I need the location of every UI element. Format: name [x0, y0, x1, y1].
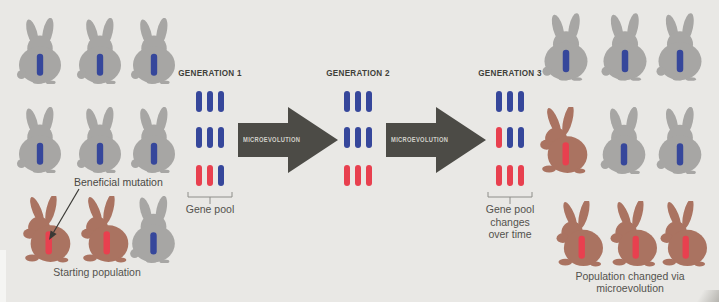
allele-blue	[37, 143, 43, 165]
allele-bar-red	[496, 127, 502, 148]
allele-red	[104, 231, 110, 254]
allele-blue	[37, 54, 43, 76]
gene-pool-caption: changes	[490, 216, 530, 228]
microevolution-label-1: MICROEVOLUTION	[243, 136, 289, 143]
generation-label-3: GENERATION 3	[478, 68, 541, 78]
changed-population-caption: Population changed via microevolution	[575, 270, 684, 294]
page-edge	[0, 250, 6, 302]
allele-bar-red	[355, 165, 361, 186]
allele-bar-blue	[518, 91, 524, 112]
allele-bar-blue	[366, 127, 372, 148]
allele-bar-blue	[355, 91, 361, 112]
allele-bar-blue	[366, 91, 372, 112]
rabbit-gray	[655, 107, 705, 174]
rabbit-gray	[129, 107, 179, 173]
microevolution-arrow-2: MICROEVOLUTION	[386, 105, 486, 175]
microevolution-diagram: GENERATION 1Gene poolGENERATION 2GENERAT…	[0, 0, 719, 302]
generation-label-1: GENERATION 1	[178, 68, 241, 78]
beneficial-mutation-arrow-icon	[40, 183, 100, 245]
rabbit-gray	[600, 13, 650, 81]
allele-bar-blue	[196, 127, 202, 148]
allele-red	[633, 236, 639, 259]
allele-bar-red	[507, 165, 513, 186]
allele-bar-blue	[344, 91, 350, 112]
rabbit-brown	[539, 107, 589, 174]
allele-blue	[151, 143, 157, 165]
gene-pool-caption: Gene pool	[486, 203, 534, 215]
rabbit-gray	[75, 18, 125, 84]
allele-blue	[622, 50, 629, 73]
allele-bar-blue	[496, 91, 502, 112]
rabbit-gray	[599, 107, 649, 174]
allele-bar-blue	[518, 127, 524, 148]
rabbit-gray	[75, 107, 125, 173]
allele-bar-blue	[207, 127, 213, 148]
allele-blue	[151, 54, 157, 76]
allele-bar-red	[207, 165, 213, 186]
rabbit-brown	[554, 201, 606, 267]
allele-blue	[621, 143, 627, 165]
allele-bar-blue	[218, 91, 224, 112]
allele-bar-blue	[507, 91, 513, 112]
changed-population-caption-line1: Population changed via	[575, 270, 684, 282]
allele-bar-blue	[207, 91, 213, 112]
allele-red	[683, 236, 689, 259]
allele-blue	[677, 143, 683, 165]
page-corner-shadow	[685, 290, 719, 302]
rabbit-gray	[655, 13, 705, 81]
allele-blue	[97, 54, 103, 76]
allele-bar-red	[496, 165, 502, 186]
gene-pool-caption: over time	[488, 228, 531, 240]
allele-bar-blue	[218, 165, 224, 186]
generation-label-2: GENERATION 2	[326, 68, 389, 78]
rabbit-brown	[608, 201, 660, 267]
rabbit-gray	[15, 18, 65, 84]
rabbit-gray	[541, 13, 591, 81]
allele-bar-blue	[507, 127, 513, 148]
starting-population-caption: Starting population	[53, 266, 141, 278]
allele-bar-red	[196, 165, 202, 186]
microevolution-arrow-1: MICROEVOLUTION	[238, 105, 338, 175]
allele-blue	[563, 50, 570, 73]
allele-blue	[97, 143, 103, 165]
allele-blue	[150, 232, 156, 254]
allele-red	[579, 236, 585, 259]
changed-population-caption-line2: microevolution	[575, 282, 684, 294]
rabbit-brown	[658, 201, 710, 267]
allele-bar-blue	[355, 127, 361, 148]
microevolution-label-2: MICROEVOLUTION	[391, 136, 437, 143]
allele-bar-blue	[218, 127, 224, 148]
allele-bar-red	[366, 165, 372, 186]
gene-pool-caption: Gene pool	[186, 203, 234, 215]
allele-red	[563, 142, 569, 165]
rabbit-gray	[129, 18, 179, 84]
allele-bar-red	[344, 165, 350, 186]
allele-blue	[677, 50, 684, 73]
allele-bar-blue	[196, 91, 202, 112]
allele-bar-blue	[344, 127, 350, 148]
rabbit-gray	[127, 196, 180, 263]
allele-bar-red	[518, 165, 524, 186]
rabbit-gray	[15, 107, 65, 173]
